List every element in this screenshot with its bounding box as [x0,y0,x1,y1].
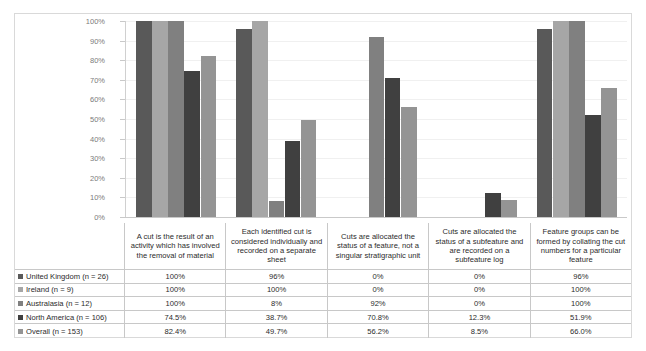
legend-cell: Overall (n = 153) [15,324,125,338]
legend-swatch-icon [18,329,23,334]
bar [553,21,569,217]
chart-page: 100%90%80%70%60%50%40%30%20%10%0% A cut … [0,0,646,351]
legend-cell: Australasia (n = 12) [15,297,125,311]
y-axis-tick-label: 80% [90,56,105,65]
y-axis-labels: 100%90%80%70%60%50%40%30%20%10%0% [15,14,111,223]
legend-label: United Kingdom (n = 26) [26,272,109,281]
table-cell-value: 96% [226,270,327,284]
table-cell-value: 74.5% [125,311,226,325]
bar [369,37,385,217]
legend-swatch-icon [18,301,23,306]
y-axis-tick-label: 30% [90,154,105,163]
table-cell-value: 8.5% [429,324,530,338]
table-cell-value: 100% [226,284,327,298]
legend-swatch-icon [18,287,23,292]
legend-cell: Ireland (n = 9) [15,284,125,298]
y-axis-tick-label: 100% [86,17,105,26]
bar [285,141,301,217]
y-axis-tick-label: 20% [90,173,105,182]
table-cell-value: 96% [531,270,631,284]
table-cell-value: 100% [531,297,631,311]
bar [485,193,501,217]
bar-group [326,21,426,217]
table-cell-value: 38.7% [226,311,327,325]
legend-label: Overall (n = 153) [26,327,83,336]
table-cell-value: 100% [125,284,226,298]
table-cell-value: 0% [429,297,530,311]
bar [301,120,317,217]
table-cell-value: 0% [328,270,429,284]
bar [252,21,268,217]
legend-cell: United Kingdom (n = 26) [15,270,125,284]
y-axis-tick-label: 90% [90,36,105,45]
column-header: Each identified cut is considered indivi… [226,223,327,270]
bar [401,107,417,217]
legend-swatch-icon [18,274,23,279]
table-cell-value: 12.3% [429,311,530,325]
table-cell-value: 8% [226,297,327,311]
table-row: Ireland (n = 9)100%100%0%0%100% [15,284,631,298]
axis-baseline [125,217,627,218]
table-corner-cell [15,223,125,270]
y-axis-tick-label: 10% [90,193,105,202]
y-axis-tick-label: 60% [90,95,105,104]
column-header: Cuts are allocated the status of a subfe… [429,223,530,270]
table-cell-value: 0% [328,284,429,298]
bar [537,29,553,217]
bar [184,71,200,217]
bar-group [527,21,627,217]
legend-swatch-icon [18,315,23,320]
bar [136,21,152,217]
column-header: A cut is the result of an activity which… [125,223,226,270]
bar [601,88,617,217]
bar-group [427,21,527,217]
bar [236,29,252,217]
legend-label: North America (n = 106) [26,313,107,322]
table-cell-value: 100% [531,284,631,298]
table-cell-value: 0% [429,284,530,298]
table-body: United Kingdom (n = 26)100%96%0%0%96%Ire… [15,270,631,338]
table-cell-value: 49.7% [226,324,327,338]
table-row: Overall (n = 153)82.4%49.7%56.2%8.5%66.0… [15,324,631,338]
table-row: Australasia (n = 12)100%8%92%0%100% [15,297,631,311]
table-cell-value: 66.0% [531,324,631,338]
bar [269,201,285,217]
table-row: United Kingdom (n = 26)100%96%0%0%96% [15,270,631,284]
y-axis-tick-label: 50% [90,115,105,124]
table-row: North America (n = 106)74.5%38.7%70.8%12… [15,311,631,325]
table-cell-value: 92% [328,297,429,311]
legend-label: Ireland (n = 9) [26,285,74,294]
column-header: Cuts are allocated the status of a featu… [328,223,429,270]
table-cell-value: 82.4% [125,324,226,338]
table-cell-value: 51.9% [531,311,631,325]
bar-groups [126,21,627,217]
bar [385,78,401,217]
table-cell-value: 100% [125,270,226,284]
table-header-row: A cut is the result of an activity which… [15,223,631,270]
bar [569,21,585,217]
table-cell-value: 0% [429,270,530,284]
y-axis-tick-label: 40% [90,134,105,143]
y-axis-tick-label: 70% [90,75,105,84]
bar-group [226,21,326,217]
bar [585,115,601,217]
bar [168,21,184,217]
column-header: Feature groups can be formed by collatin… [531,223,631,270]
legend-cell: North America (n = 106) [15,311,125,325]
table-cell-value: 56.2% [328,324,429,338]
legend-label: Australasia (n = 12) [26,299,92,308]
bar [152,21,168,217]
y-axis-tick-label: 0% [94,213,105,222]
bar [501,200,517,217]
data-table: A cut is the result of an activity which… [15,223,631,337]
bar [201,56,217,218]
table-cell-value: 100% [125,297,226,311]
table-cell-value: 70.8% [328,311,429,325]
chart-frame: 100%90%80%70%60%50%40%30%20%10%0% A cut … [14,13,632,338]
plot-area: 100%90%80%70%60%50%40%30%20%10%0% [15,14,631,223]
bar-group [126,21,226,217]
